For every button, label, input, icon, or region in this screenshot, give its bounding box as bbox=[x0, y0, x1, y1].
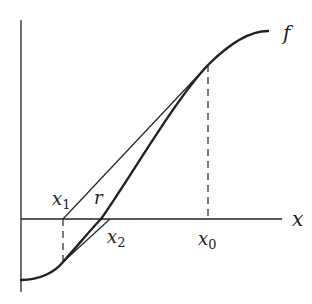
function-label: f bbox=[281, 21, 294, 45]
tangent-line bbox=[63, 219, 110, 262]
secant-line bbox=[63, 65, 208, 219]
x1-label: x1 bbox=[52, 188, 70, 212]
x0-label: x0 bbox=[198, 228, 216, 252]
function-curve bbox=[21, 31, 268, 280]
root-label: r bbox=[94, 187, 104, 208]
secant-diagram: f x r x1 x2 x0 bbox=[0, 0, 312, 304]
x-axis-label: x bbox=[292, 207, 303, 231]
x2-label: x2 bbox=[107, 226, 125, 250]
